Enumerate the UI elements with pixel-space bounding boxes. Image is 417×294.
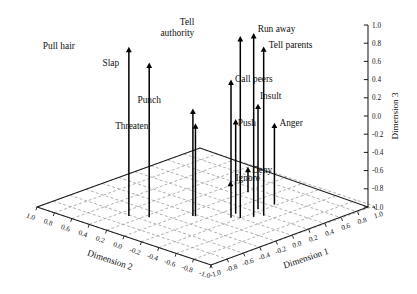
tick-mark-d2	[175, 253, 176, 256]
grid-line-d1	[119, 178, 293, 236]
tick-label-d3: 0.8	[372, 40, 381, 48]
tick-label-d2: -0.4	[146, 252, 160, 263]
data-point-label: Punch	[137, 95, 161, 105]
tick-label-d1: -0.2	[274, 245, 288, 256]
tick-mark-d2	[123, 236, 124, 239]
data-point-marker	[228, 80, 234, 85]
tick-label-d1: 0.2	[308, 233, 319, 244]
axis-title-dimension-1: Dimension 1	[282, 246, 330, 271]
grid-line-d1	[70, 195, 244, 253]
tick-label-d2: -0.8	[181, 263, 195, 274]
tick-label-d2: 0.6	[60, 223, 71, 234]
data-point-label: Call peers	[235, 74, 273, 84]
tick-label-d1: -0.4	[258, 251, 272, 262]
data-point-marker	[146, 63, 152, 68]
data-point-marker	[261, 46, 267, 51]
floor-axis-ticks	[36, 206, 375, 268]
data-point	[272, 123, 278, 205]
tick-mark-d2	[36, 207, 37, 210]
tick-label-d1: -0.8	[225, 263, 239, 274]
tick-label-d1: -1.0	[209, 268, 223, 279]
data-point-label: Run away	[258, 24, 296, 34]
tick-mark-d1	[309, 230, 310, 233]
data-point-label: Push	[238, 118, 257, 128]
tick-label-d2: 1.0	[25, 211, 36, 222]
chart-container: 1.00.80.60.40.20.0-0.2-0.4-0.6-0.8-1.0-1…	[0, 0, 417, 294]
data-point-label: Anger	[279, 118, 303, 128]
tick-mark-d1	[227, 259, 228, 262]
tick-mark-d2	[88, 224, 89, 227]
tick-mark-d1	[211, 265, 212, 268]
tick-mark-d1	[341, 218, 342, 221]
tick-label-d2: -0.6	[163, 258, 177, 269]
tick-mark-d2	[53, 213, 54, 216]
data-point-label: Slap	[103, 58, 120, 68]
axis-tick-labels: 1.00.80.60.40.20.0-0.2-0.4-0.6-0.8-1.0-1…	[25, 22, 384, 281]
floor-boundary	[37, 148, 368, 265]
data-point-label: Deny	[252, 165, 273, 175]
grid-line-d2	[89, 165, 252, 224]
tick-label-d2: 0.8	[43, 217, 54, 228]
tick-label-d3: -0.8	[372, 185, 384, 193]
data-point-marker	[190, 109, 196, 114]
tick-label-d3: 0.4	[372, 76, 381, 84]
tick-label-d3: 1.0	[372, 22, 381, 30]
data-point	[233, 119, 239, 214]
data-point	[261, 46, 267, 215]
tick-mark-d2	[106, 230, 107, 233]
data-point-label: Tell parents	[269, 40, 313, 50]
tick-mark-d2	[193, 259, 194, 262]
data-point-label: Pull hair	[43, 41, 76, 51]
tick-label-d3: -0.6	[372, 167, 384, 175]
tick-label-d2: 0.0	[112, 240, 123, 251]
data-point-marker	[272, 123, 278, 128]
tick-label-d3: 0.6	[372, 58, 381, 66]
tick-label-d1: 0.0	[291, 239, 302, 250]
tick-label-d3: 0.0	[372, 113, 381, 121]
tick-label-d3: -1.0	[372, 204, 384, 212]
tick-mark-d1	[358, 212, 359, 215]
tick-mark-d1	[293, 236, 294, 239]
tick-label-d2: 0.4	[77, 229, 88, 240]
tick-mark-d1	[244, 253, 245, 256]
axis-title-dimension-2: Dimension 2	[86, 248, 134, 273]
tick-label-d1: 0.8	[357, 216, 368, 227]
floor-outline	[37, 148, 368, 265]
tick-mark-d2	[158, 248, 159, 251]
data-point-marker	[237, 36, 243, 41]
tick-label-d1: -0.6	[241, 257, 255, 268]
data-point-label: Threaten	[115, 121, 149, 131]
vertical-axis	[364, 25, 368, 207]
tick-mark-d2	[140, 242, 141, 245]
tick-label-d2: 0.2	[95, 235, 106, 246]
data-point	[228, 80, 234, 218]
data-point-marker	[126, 47, 132, 52]
three-d-scatter-plot: 1.00.80.60.40.20.0-0.2-0.4-0.6-0.8-1.0-1…	[0, 0, 417, 294]
tick-mark-d1	[276, 241, 277, 244]
data-point-labels: Pull hairSlapPunchThreatenTellauthorityC…	[43, 17, 313, 183]
tick-mark-d2	[71, 219, 72, 222]
tick-label-d2: -0.2	[128, 246, 142, 257]
axis-title-dimension-3: Dimension 3	[390, 92, 400, 140]
data-point	[146, 63, 152, 218]
data-point-label: Tellauthority	[160, 17, 194, 38]
data-point	[255, 104, 261, 210]
tick-mark-d1	[325, 224, 326, 227]
data-point	[126, 47, 132, 216]
tick-label-d1: 0.4	[324, 227, 335, 238]
tick-label-d3: -0.4	[372, 149, 384, 157]
data-point-marker	[255, 104, 261, 109]
tick-label-d3: 0.2	[372, 94, 381, 102]
tick-mark-d1	[260, 247, 261, 250]
tick-label-d3: -0.2	[372, 131, 384, 139]
data-point-marker	[251, 33, 257, 38]
data-point-label: Insult	[260, 91, 282, 101]
tick-label-d1: 0.6	[340, 222, 351, 233]
